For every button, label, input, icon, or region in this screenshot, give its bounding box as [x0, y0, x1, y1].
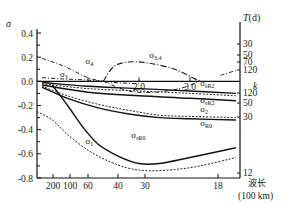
right-tick-label: 30 — [243, 112, 253, 122]
series-label-3: σ3 — [60, 69, 68, 80]
wavelength-axis-title: 波长 — [248, 177, 266, 188]
wavelength-axis-unit: (100 km) — [238, 191, 273, 202]
series-line--3-4-right — [221, 71, 236, 76]
y-tick-label: 0.2 — [21, 53, 33, 63]
chart: σ0.40.20.0-0.2-0.4-0.6-0.82.03.0k2001006… — [0, 0, 285, 207]
wavelength-tick-label: 18 — [213, 181, 223, 191]
y-tick-label: -0.6 — [18, 149, 33, 159]
wavelength-tick-label: 30 — [140, 181, 150, 191]
y-axis-title: σ — [6, 18, 12, 29]
y-tick-label: 0.0 — [21, 77, 33, 87]
y-tick-label: -0.2 — [18, 101, 33, 111]
right-tick-label: 120 — [243, 65, 258, 75]
series-label-sr2: σsR2 — [200, 78, 214, 89]
wavelength-tick-label: 60 — [83, 181, 93, 191]
series-line--1 — [37, 112, 236, 171]
series-label-sr0: σsR0 — [131, 130, 145, 141]
wavelength-tick-label: 100 — [63, 181, 78, 191]
y-tick-label: -0.4 — [18, 125, 33, 135]
wavelength-tick-label: 40 — [113, 181, 123, 191]
right-tick-label: 120 — [243, 88, 258, 98]
right-tick-label: 50 — [243, 98, 253, 108]
y-tick-label: 0.4 — [21, 29, 33, 39]
wavelength-tick-label: 200 — [46, 181, 61, 191]
y-tick-label: -0.8 — [18, 174, 33, 184]
right-axis-title: T(d) — [243, 12, 260, 24]
right-tick-label: 30 — [243, 39, 253, 49]
series-line--3-4 — [103, 62, 200, 82]
axes: σ0.40.20.0-0.2-0.4-0.6-0.82.03.0k2001006… — [6, 12, 273, 202]
series-label-4: σ4 — [85, 56, 93, 67]
series-line--3 — [42, 78, 139, 84]
right-tick-label: 12 — [243, 168, 253, 178]
series-label-34: σ3,4 — [149, 50, 161, 61]
